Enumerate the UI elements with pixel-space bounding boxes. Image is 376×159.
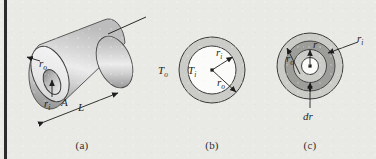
caption-a: (a) — [52, 139, 112, 151]
figure-canvas: ro ri A L (a) — [0, 0, 376, 159]
label-inner-radius: ri — [357, 32, 363, 47]
label-outer-temperature: To — [158, 64, 168, 79]
caption-b: (b) — [182, 139, 242, 151]
panel-a: ro ri A L (a) — [0, 0, 150, 159]
panel-b-drawing: ri ro To Ti — [150, 0, 262, 159]
label-radius: r — [313, 38, 318, 50]
panel-b: ri ro To Ti (b) — [150, 0, 262, 159]
label-area: A — [60, 96, 68, 108]
label-dr: dr — [303, 110, 314, 122]
caption-c: (c) — [280, 139, 340, 151]
panel-a-drawing: ro ri A L — [0, 0, 150, 159]
panel-c-drawing: ro r ri dr — [262, 0, 376, 159]
panel-c: ro r ri dr (c) — [262, 0, 376, 159]
label-length: L — [77, 101, 84, 113]
